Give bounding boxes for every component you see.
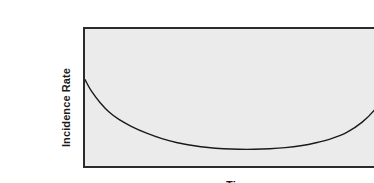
x-axis-label: Time <box>83 179 374 183</box>
plot-area <box>83 27 374 168</box>
incidence-rate-curve <box>85 80 374 150</box>
incidence-rate-over-time-chart: Incidence Rate Time <box>40 16 374 183</box>
curve-svg <box>85 29 374 166</box>
y-axis-label: Incidence Rate <box>57 16 75 183</box>
